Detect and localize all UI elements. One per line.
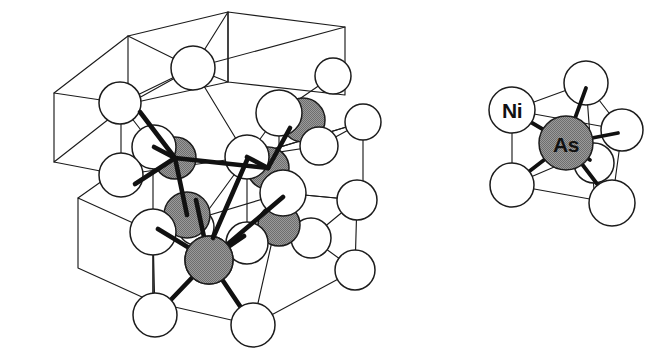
atom-ni: [300, 127, 338, 165]
ni-label: Ni: [502, 99, 522, 122]
atom-ni: [99, 82, 141, 124]
atom-ni: [315, 58, 351, 94]
atom-ni: [133, 293, 177, 337]
as-label: As: [553, 133, 579, 156]
coordination-panel: As Ni: [489, 61, 643, 226]
atom-ni: [564, 61, 608, 105]
atom-ni: [256, 90, 302, 136]
atom-as-central-top: [185, 236, 233, 284]
structure-canvas: As Ni: [0, 0, 672, 350]
atom-ni: [335, 250, 375, 290]
atom-ni: [130, 209, 176, 255]
atom-ni: [171, 46, 215, 90]
atom-ni: [99, 153, 143, 197]
atom-ni: [345, 104, 381, 140]
atom-ni: [589, 180, 635, 226]
atom-ni: [231, 303, 275, 347]
atom-ni: [490, 163, 534, 207]
crystal-structure-figure: As Ni: [0, 0, 672, 350]
unit-cell-panel: [54, 12, 381, 347]
atom-ni: [337, 180, 377, 220]
atom-ni: [601, 109, 643, 151]
cell-thin-bonds: [120, 68, 363, 315]
